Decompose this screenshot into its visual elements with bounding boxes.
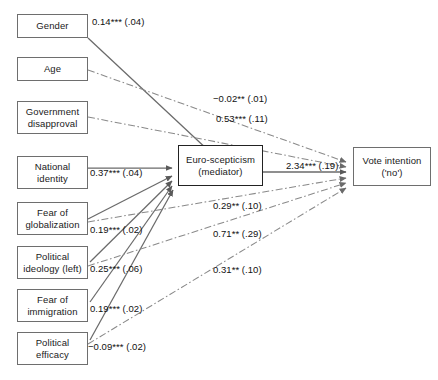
node-euro-scepticism-mediator[interactable]: Euro-scepticism (mediator) [178, 145, 263, 186]
coef-political-ideology-to-outcome: 0.71** (.29) [213, 228, 262, 239]
edge-gender-to-mediator [88, 38, 210, 152]
coef-fear-immigration-to-mediator: 0.19*** (.02) [90, 303, 142, 314]
node-national-identity-label: National identity [18, 161, 87, 184]
node-national-identity[interactable]: National identity [17, 156, 88, 189]
node-gender-label: Gender [18, 20, 87, 32]
node-fear-of-immigration-label: Fear of immigration [18, 294, 87, 317]
node-government-disapproval-label: Government disapproval [18, 106, 87, 129]
coef-mediator-to-outcome: 2.34*** (.19) [286, 160, 338, 171]
node-fear-of-immigration[interactable]: Fear of immigration [17, 289, 88, 322]
coef-political-efficacy-to-mediator: −0.09*** (.02) [88, 341, 146, 352]
node-political-efficacy[interactable]: Political efficacy [17, 332, 88, 365]
edge-fear-immigration-to-mediator [90, 186, 172, 302]
node-vote-intention[interactable]: Vote intention ('no') [353, 147, 431, 186]
coef-fear-globalization-to-mediator: 0.19*** (.02) [90, 224, 142, 235]
node-political-efficacy-label: Political efficacy [18, 337, 87, 360]
node-age-label: Age [18, 63, 87, 75]
node-euro-scepticism-label: Euro-scepticism (mediator) [179, 154, 262, 177]
edge-fear-globalization-to-mediator [88, 176, 172, 219]
node-government-disapproval[interactable]: Government disapproval [17, 101, 88, 134]
node-age[interactable]: Age [17, 57, 88, 81]
node-political-ideology-left-label: Political ideology (left) [18, 251, 87, 274]
path-diagram: Gender Age Government disapproval Nation… [0, 0, 438, 380]
coef-political-ideology-to-mediator: 0.25*** (.06) [90, 263, 142, 274]
node-political-ideology-left[interactable]: Political ideology (left) [17, 246, 88, 279]
coef-national-identity-to-mediator: 0.37*** (.04) [90, 167, 142, 178]
coef-gender-to-mediator: 0.14*** (.04) [92, 16, 144, 27]
coef-government-disapproval-to-outcome: 0.53*** (.11) [216, 113, 268, 124]
coef-age-to-outcome: −0.02** (.01) [213, 93, 267, 104]
node-fear-of-globalization-label: Fear of globalization [18, 207, 87, 230]
coef-fear-globalization-to-outcome: 0.29** (.10) [213, 200, 262, 211]
node-gender[interactable]: Gender [17, 14, 88, 38]
node-vote-intention-label: Vote intention ('no') [354, 155, 430, 178]
node-fear-of-globalization[interactable]: Fear of globalization [17, 202, 88, 235]
edge-political-ideology-to-mediator [90, 181, 172, 262]
coef-political-efficacy-to-outcome: 0.31** (.10) [213, 264, 262, 275]
